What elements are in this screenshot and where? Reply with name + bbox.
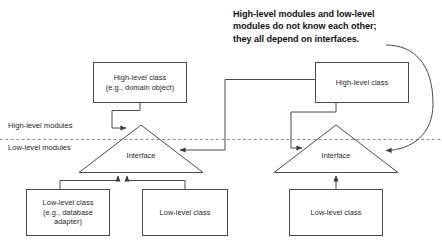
connector-lowlevel-a-to-left-interface <box>60 176 118 189</box>
lowlevel-a-line2: (e.g., database <box>40 208 97 218</box>
lowlevel-b-line1: Low-level class <box>157 208 214 218</box>
node-right-high-level-class[interactable]: High-level class <box>315 62 409 103</box>
node-low-level-class-database-adapter[interactable]: Low-level class (e.g., database adapter) <box>26 189 110 236</box>
label-low-level-modules: Low-level modules <box>8 143 71 152</box>
node-low-level-class-right[interactable]: Low-level class <box>289 189 383 236</box>
node-low-level-class-left-b[interactable]: Low-level class <box>142 189 228 236</box>
left-high-level-line2: (e.g., domain object) <box>103 83 177 93</box>
node-left-high-level-class[interactable]: High-level class (e.g., domain object) <box>93 62 187 103</box>
callout-annotation-text: High-level modules and low-level modules… <box>233 8 438 45</box>
diagram-canvas: High-level modules and low-level modules… <box>0 0 442 247</box>
connector-lowlevel-b-to-left-interface <box>127 176 185 189</box>
label-high-level-modules: High-level modules <box>8 121 73 130</box>
right-high-level-line1: High-level class <box>333 78 392 88</box>
connector-left-high-to-left-interface <box>112 103 140 128</box>
lowlevel-a-line1: Low-level class <box>40 198 97 208</box>
lowlevel-a-line3: adapter) <box>40 217 97 227</box>
right-interface-label: Interface <box>322 151 351 160</box>
left-high-level-line1: High-level class <box>103 73 177 83</box>
right-lowlevel-line1: Low-level class <box>308 208 365 218</box>
left-interface-label: Interface <box>127 151 156 160</box>
right-interface-triangle <box>274 125 398 173</box>
left-interface-triangle <box>79 125 203 173</box>
